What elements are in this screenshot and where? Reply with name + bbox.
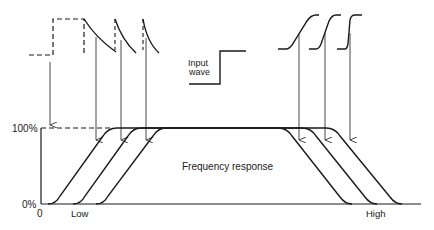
y-label-100: 100%	[12, 123, 38, 134]
tilt-wave-1	[84, 19, 116, 52]
x-label-low: Low	[71, 208, 89, 219]
x-label-high: High	[366, 208, 386, 219]
tilt-wave-2	[115, 19, 136, 53]
dashed-reference-step	[29, 19, 84, 55]
high-frequency-waveforms	[278, 15, 362, 49]
input-wave-legend: Input wave	[188, 51, 246, 84]
mapping-arrows	[50, 33, 350, 140]
frequency-response-diagram: Input wave 100% 0% 0 Low High Frequency …	[0, 0, 434, 230]
x-label-origin: 0	[37, 208, 43, 219]
input-wave-label-line2: wave	[188, 67, 210, 77]
rise-wave-3	[337, 15, 362, 49]
tilt-wave-3	[143, 19, 159, 53]
low-frequency-waveforms	[29, 19, 159, 55]
response-curves: Frequency response	[48, 128, 402, 204]
rise-wave-1	[278, 15, 319, 49]
y-label-0: 0%	[22, 199, 37, 210]
frequency-response-label: Frequency response	[182, 161, 274, 172]
